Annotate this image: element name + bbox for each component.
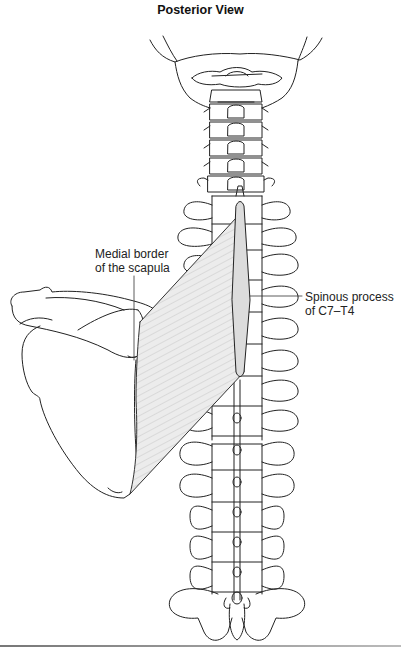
anatomy-illustration [0,0,401,649]
label-medial-border-line1: Medial border [95,247,170,261]
cervical-vertebrae [197,90,274,192]
label-spinous-process-line2: of C7–T4 [305,304,394,318]
sacrum [169,589,304,641]
label-medial-border-line2: of the scapula [95,261,170,275]
bottom-divider [0,645,401,647]
label-medial-border: Medial border of the scapula [95,247,170,275]
spinous-process-attachment [232,186,250,377]
label-spinous-process-line1: Spinous process [305,290,394,304]
label-spinous-process: Spinous process of C7–T4 [305,290,394,318]
skull-base [150,36,322,108]
